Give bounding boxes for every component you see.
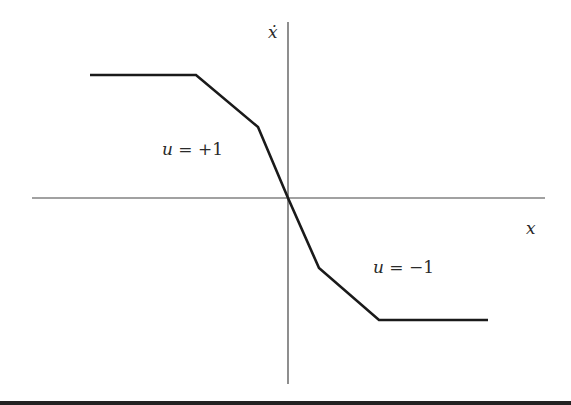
region-label-u-plus: u = +1: [162, 139, 223, 159]
y-axis-label: ẋ: [268, 22, 278, 42]
phase-plane-diagram: ẋ x u = +1 u = −1: [0, 0, 571, 405]
bottom-rule: [0, 401, 571, 405]
region-label-u-minus: u = −1: [373, 257, 434, 277]
x-axis-label: x: [526, 218, 536, 238]
